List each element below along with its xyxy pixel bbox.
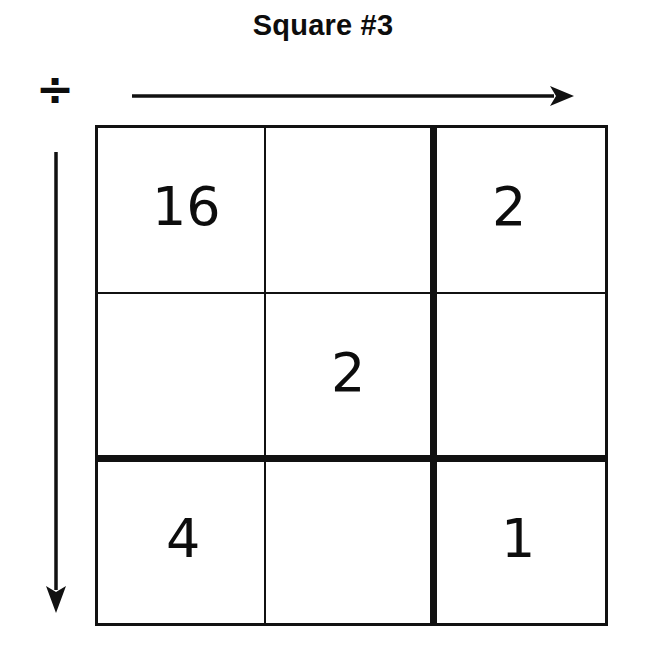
cell-value-r1c1: 16 <box>152 180 221 234</box>
cell-r2c1[interactable] <box>98 294 264 455</box>
puzzle-grid: 16 2 2 4 1 <box>95 125 608 626</box>
cell-r3c3[interactable]: 1 <box>437 462 605 623</box>
cell-value-r3c1: 4 <box>166 512 200 566</box>
puzzle-page: Square #3 ÷ 16 2 <box>0 0 646 663</box>
cell-r2c3[interactable] <box>437 294 605 455</box>
row-direction-arrow <box>130 76 575 116</box>
cell-r3c1[interactable]: 4 <box>98 462 264 623</box>
grid-line-vertical-2-bold <box>430 125 437 626</box>
cell-r1c3[interactable]: 2 <box>437 128 605 292</box>
grid-line-horizontal-2-bold <box>95 455 608 462</box>
cell-r3c2[interactable] <box>266 462 430 623</box>
cell-r1c1[interactable]: 16 <box>98 128 264 292</box>
cell-value-r3c3: 1 <box>501 512 535 566</box>
column-direction-arrow <box>36 150 76 615</box>
cell-value-r1c3: 2 <box>492 180 526 234</box>
cell-value-r2c2: 2 <box>331 346 365 400</box>
division-sign-icon: ÷ <box>33 62 77 116</box>
page-title: Square #3 <box>0 9 646 42</box>
cell-r1c2[interactable] <box>266 128 430 292</box>
cell-r2c2[interactable]: 2 <box>266 294 430 455</box>
